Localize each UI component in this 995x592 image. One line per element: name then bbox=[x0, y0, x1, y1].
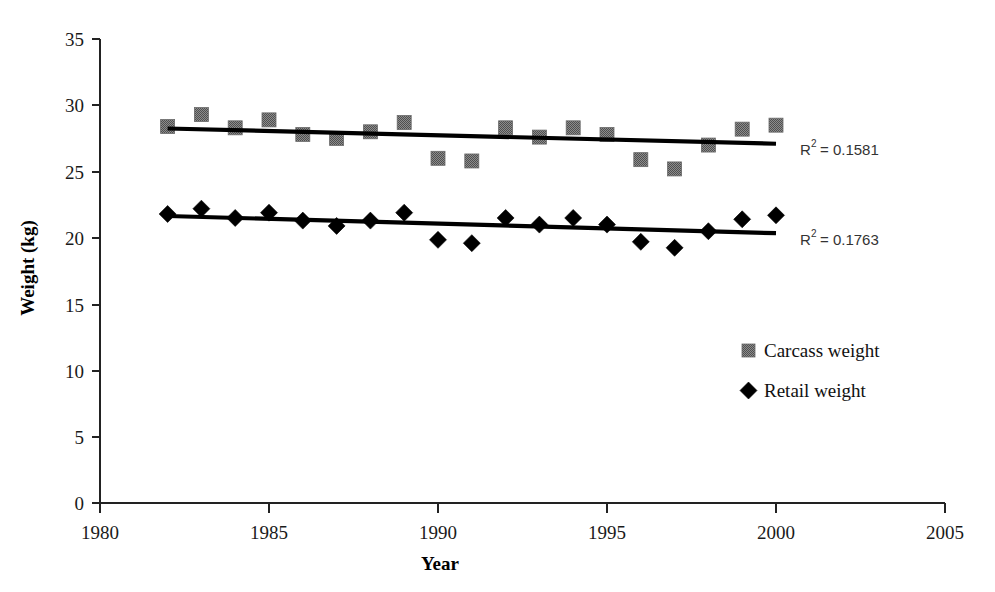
r2-retail-base: R bbox=[800, 231, 811, 248]
y-tick-label-0: 0 bbox=[75, 493, 85, 514]
legend-item-retail-weight[interactable]: Retail weight bbox=[740, 380, 867, 401]
legend-diamond-marker-icon bbox=[740, 382, 757, 399]
data-point-carcass-1982 bbox=[161, 120, 175, 134]
data-point-carcass-1999 bbox=[735, 122, 749, 136]
r2-carcass-value: = 0.1581 bbox=[820, 141, 879, 158]
y-axis-title: Weight (kg) bbox=[17, 220, 39, 316]
y-tick-label-20: 20 bbox=[65, 228, 84, 249]
data-point-retail-1997 bbox=[666, 239, 683, 256]
chart-figure: 35 30 25 20 15 10 5 0 1980 1985 1990 199… bbox=[0, 0, 995, 592]
chart-legend: Carcass weight Retail weight bbox=[740, 340, 880, 401]
y-tick-label-10: 10 bbox=[65, 361, 84, 382]
data-point-retail-1996 bbox=[632, 233, 649, 250]
data-point-carcass-1996 bbox=[634, 153, 648, 167]
y-tick-label-25: 25 bbox=[65, 162, 84, 183]
r2-carcass-base: R bbox=[800, 141, 811, 158]
data-point-retail-1989 bbox=[396, 204, 413, 221]
series-retail-weight bbox=[159, 200, 784, 256]
r2-retail-exponent: 2 bbox=[811, 228, 817, 239]
r2-carcass-exponent: 2 bbox=[811, 138, 817, 149]
x-tick-label-1985: 1985 bbox=[250, 522, 288, 543]
data-point-carcass-1985 bbox=[262, 113, 276, 127]
scatter-plot-svg: 35 30 25 20 15 10 5 0 1980 1985 1990 199… bbox=[0, 0, 995, 592]
data-point-retail-1994 bbox=[565, 209, 582, 226]
x-tick-label-2005: 2005 bbox=[926, 522, 964, 543]
y-tick-label-30: 30 bbox=[65, 95, 84, 116]
trendline-carcass-weight bbox=[168, 128, 776, 143]
r2-retail-value: = 0.1763 bbox=[820, 231, 879, 248]
x-axis-ticks bbox=[100, 503, 945, 513]
x-tick-labels: 1980 1985 1990 1995 2000 2005 bbox=[81, 522, 964, 543]
data-point-retail-2000 bbox=[768, 207, 785, 224]
legend-item-carcass-weight[interactable]: Carcass weight bbox=[742, 340, 880, 361]
data-point-retail-1983 bbox=[193, 200, 210, 217]
trendline-retail-weight bbox=[168, 216, 776, 233]
x-tick-label-2000: 2000 bbox=[757, 522, 795, 543]
y-tick-label-35: 35 bbox=[65, 29, 84, 50]
legend-label-carcass-weight: Carcass weight bbox=[764, 340, 880, 361]
data-point-carcass-1990 bbox=[431, 151, 445, 165]
data-point-retail-1991 bbox=[463, 235, 480, 252]
data-point-carcass-1983 bbox=[194, 108, 208, 122]
axis-lines bbox=[100, 39, 945, 503]
data-point-retail-1982 bbox=[159, 205, 176, 222]
x-tick-label-1990: 1990 bbox=[419, 522, 457, 543]
x-axis-title: Year bbox=[421, 553, 460, 574]
data-point-carcass-1997 bbox=[668, 162, 682, 176]
data-point-carcass-1984 bbox=[228, 121, 242, 135]
data-point-carcass-1992 bbox=[499, 121, 513, 135]
annotation-r2-carcass: R 2 = 0.1581 bbox=[800, 138, 879, 158]
data-point-retail-1990 bbox=[430, 231, 447, 248]
y-tick-label-15: 15 bbox=[65, 295, 84, 316]
x-tick-label-1980: 1980 bbox=[81, 522, 119, 543]
data-point-carcass-1991 bbox=[465, 154, 479, 168]
legend-square-marker-icon bbox=[742, 344, 755, 357]
x-tick-label-1995: 1995 bbox=[588, 522, 626, 543]
data-point-carcass-1994 bbox=[566, 121, 580, 135]
data-point-carcass-2000 bbox=[769, 118, 783, 132]
data-point-retail-1999 bbox=[734, 211, 751, 228]
data-point-carcass-1986 bbox=[296, 127, 310, 141]
y-tick-labels: 35 30 25 20 15 10 5 0 bbox=[65, 29, 84, 514]
y-tick-label-5: 5 bbox=[75, 427, 85, 448]
data-point-carcass-1989 bbox=[397, 116, 411, 130]
annotation-r2-retail: R 2 = 0.1763 bbox=[800, 228, 879, 248]
y-axis-ticks bbox=[92, 39, 100, 503]
legend-label-retail-weight: Retail weight bbox=[764, 380, 867, 401]
